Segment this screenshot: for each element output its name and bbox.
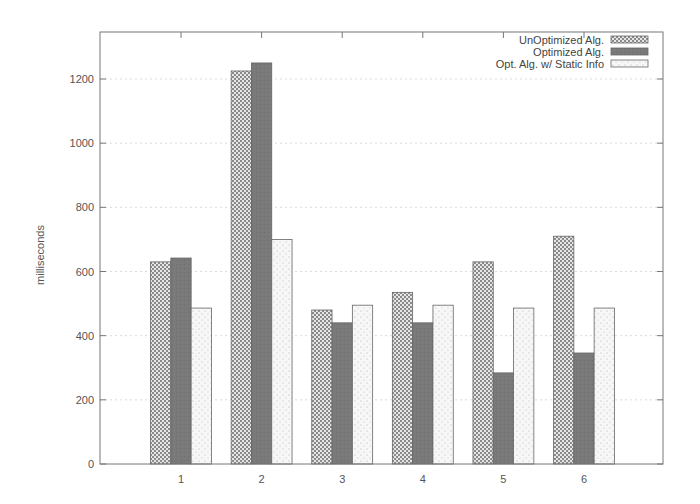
- y-tick-label: 600: [76, 266, 94, 278]
- x-tick-label: 1: [178, 473, 184, 485]
- legend: UnOptimized Alg.Optimized Alg.Opt. Alg. …: [496, 34, 648, 70]
- bars: [151, 63, 615, 464]
- y-axis-title: milliseconds: [34, 225, 46, 285]
- x-tick-label: 3: [339, 473, 345, 485]
- legend-swatch: [611, 60, 648, 67]
- bar: [251, 63, 271, 464]
- bar: [272, 239, 292, 464]
- y-tick-label: 800: [76, 201, 94, 213]
- y-tick-label: 0: [88, 458, 94, 470]
- legend-label: UnOptimized Alg.: [519, 34, 604, 46]
- legend-label: Optimized Alg.: [533, 46, 604, 58]
- bar: [332, 323, 352, 464]
- bar: [514, 308, 534, 464]
- x-tick-label: 2: [259, 473, 265, 485]
- bar: [191, 308, 211, 464]
- bar-chart: 020040060080010001200 123456 millisecond…: [0, 0, 700, 504]
- bar: [231, 71, 251, 464]
- bar: [493, 373, 513, 464]
- x-tick-label: 4: [420, 473, 426, 485]
- bar: [554, 236, 574, 464]
- bar: [574, 353, 594, 464]
- legend-swatch: [611, 48, 648, 55]
- y-tick-label: 1000: [70, 137, 94, 149]
- bar: [594, 308, 614, 464]
- bar: [413, 323, 433, 464]
- x-tick-label: 5: [500, 473, 506, 485]
- bar: [392, 292, 412, 464]
- bar: [171, 258, 191, 464]
- bar: [473, 262, 493, 464]
- y-tick-label: 1200: [70, 73, 94, 85]
- y-tick-label: 200: [76, 394, 94, 406]
- x-tick-label: 6: [581, 473, 587, 485]
- y-tick-label: 400: [76, 330, 94, 342]
- legend-label: Opt. Alg. w/ Static Info: [496, 58, 604, 70]
- bar: [352, 305, 372, 464]
- legend-swatch: [611, 36, 648, 43]
- bar: [151, 262, 171, 464]
- bar: [433, 305, 453, 464]
- bar: [312, 310, 332, 464]
